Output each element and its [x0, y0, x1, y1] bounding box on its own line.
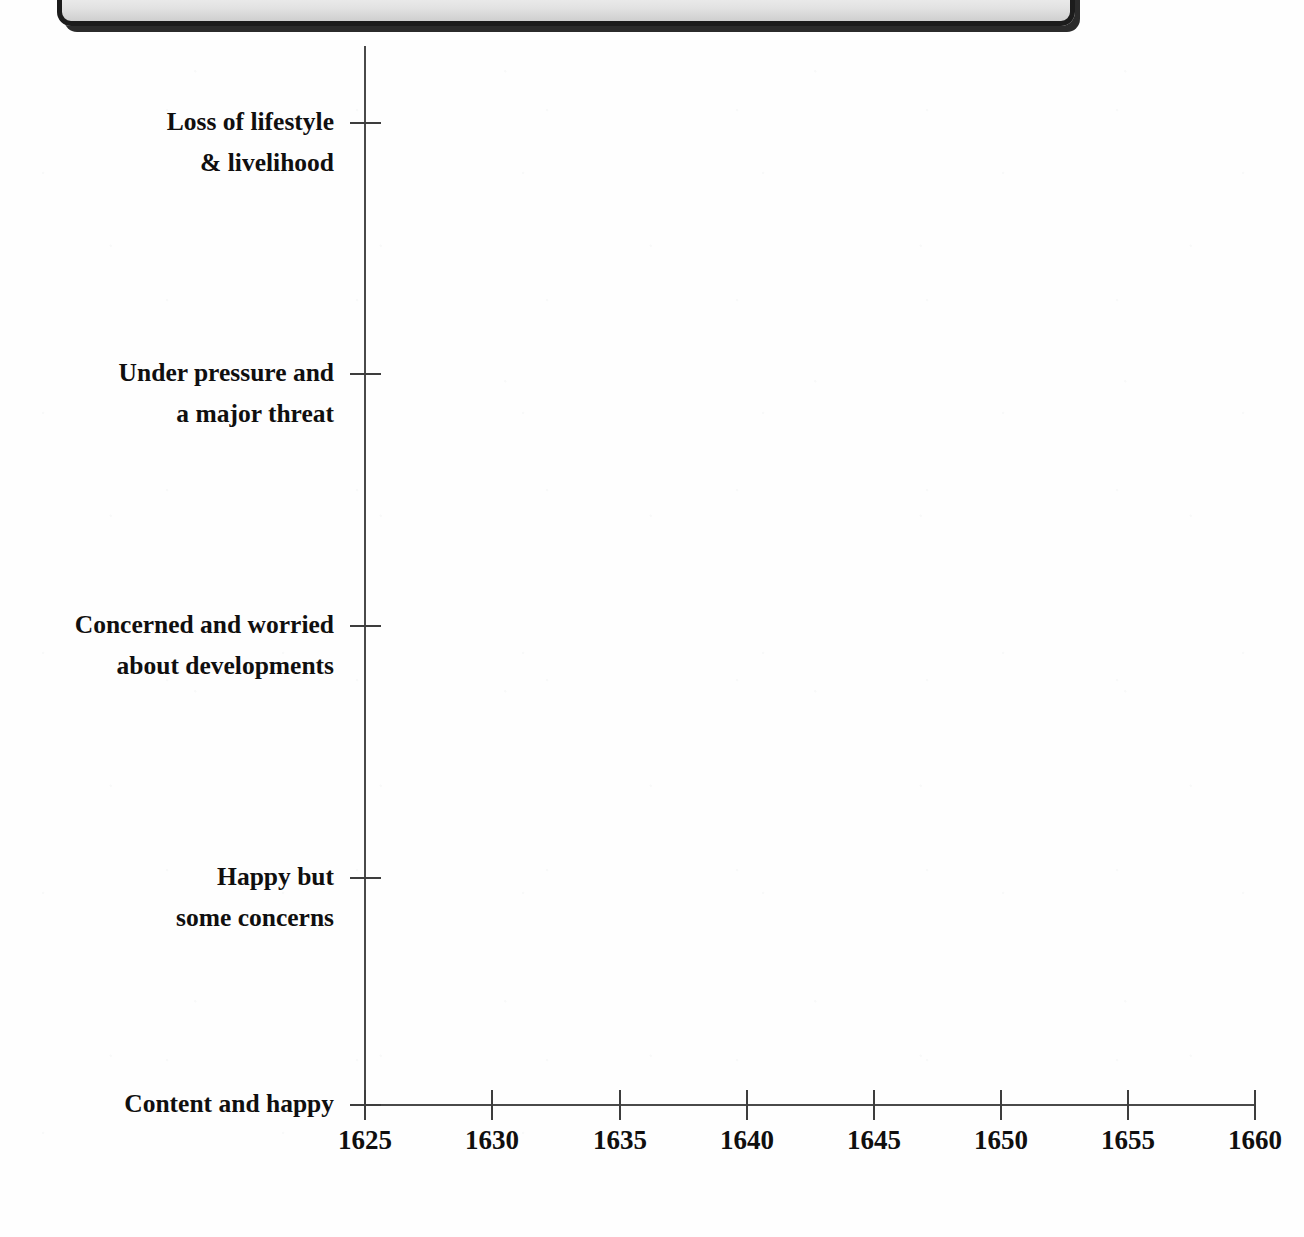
- x-axis-line: [364, 1104, 1256, 1106]
- x-axis-tick: [1127, 1090, 1129, 1120]
- x-axis-tick: [619, 1090, 621, 1120]
- y-axis-tick-label-line1: Content and happy: [4, 1083, 334, 1124]
- y-axis-tick-label: Loss of lifestyle & livelihood: [4, 101, 334, 184]
- x-axis-tick-label: 1660: [1185, 1125, 1304, 1156]
- y-axis-tick: [350, 373, 381, 375]
- x-axis-tick-label: 1625: [295, 1125, 435, 1156]
- y-axis-tick-label-line2: a major threat: [4, 393, 334, 434]
- x-axis-tick: [746, 1090, 748, 1120]
- x-axis-tick-label: 1650: [931, 1125, 1071, 1156]
- y-axis-tick-label: Content and happy: [4, 1083, 334, 1124]
- page-canvas: Loss of lifestyle & livelihood Under pre…: [0, 0, 1304, 1237]
- x-axis-tick: [873, 1090, 875, 1120]
- x-axis-tick-label: 1630: [422, 1125, 562, 1156]
- y-axis-tick-label: Under pressure and a major threat: [4, 352, 334, 435]
- y-axis-tick: [350, 625, 381, 627]
- x-axis-tick: [1000, 1090, 1002, 1120]
- x-axis-tick-label: 1655: [1058, 1125, 1198, 1156]
- x-axis-tick: [491, 1090, 493, 1120]
- x-axis-tick-label: 1635: [550, 1125, 690, 1156]
- y-axis-tick: [350, 877, 381, 879]
- y-axis-tick-label-line2: some concerns: [4, 897, 334, 938]
- y-axis-tick-label-line1: Loss of lifestyle: [4, 101, 334, 142]
- y-axis-line: [364, 46, 366, 1120]
- y-axis-tick-label: Concerned and worried about developments: [4, 604, 334, 687]
- y-axis-tick-label-line2: & livelihood: [4, 142, 334, 183]
- chart-plot-area: Loss of lifestyle & livelihood Under pre…: [0, 0, 1304, 1237]
- x-axis-tick: [1254, 1090, 1256, 1120]
- x-axis-tick-label: 1645: [804, 1125, 944, 1156]
- y-axis-tick-label-line2: about developments: [4, 645, 334, 686]
- y-axis-tick: [350, 122, 381, 124]
- y-axis-tick-label-line1: Concerned and worried: [4, 604, 334, 645]
- x-axis-tick-label: 1640: [677, 1125, 817, 1156]
- y-axis-tick-label: Happy but some concerns: [4, 856, 334, 939]
- x-axis-tick: [364, 1090, 366, 1120]
- y-axis-tick-label-line1: Under pressure and: [4, 352, 334, 393]
- y-axis-tick-label-line1: Happy but: [4, 856, 334, 897]
